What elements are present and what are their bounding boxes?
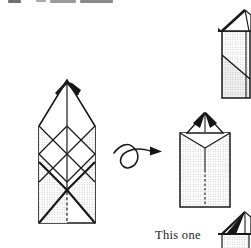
turn-over-curl-arrow-icon	[112, 140, 166, 176]
clipped-heading-mark	[50, 0, 76, 3]
this-one-caption: This one	[155, 228, 201, 243]
origami-book-page: This one	[0, 0, 251, 248]
origami-folded-side-diagram	[214, 6, 251, 100]
origami-folded-front-diagram	[177, 108, 233, 210]
clipped-heading-mark	[8, 0, 21, 3]
clipped-heading-mark	[36, 0, 46, 2]
clipped-heading-mark	[80, 0, 113, 3]
origami-crease-pattern-diagram	[36, 76, 100, 226]
origami-result-thumbnail	[216, 206, 251, 248]
